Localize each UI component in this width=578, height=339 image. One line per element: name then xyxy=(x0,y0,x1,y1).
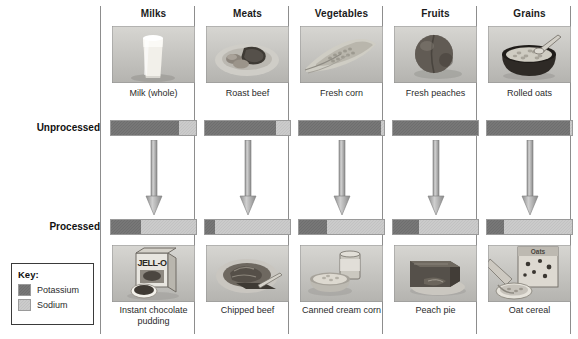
potassium-segment xyxy=(393,220,419,234)
roast-beef-plate-photo xyxy=(206,26,289,83)
glass-of-milk-photo xyxy=(112,26,195,83)
food-column-milks: MilksMilk (whole)JELL-OInstant chocolate… xyxy=(106,0,201,339)
row-label-processed: Processed xyxy=(4,221,100,232)
potassium-segment xyxy=(487,220,504,234)
nutrient-bar-unprocessed-vegetables xyxy=(298,120,385,136)
nutrient-bar-unprocessed-milks xyxy=(110,120,197,136)
column-header-milks: Milks xyxy=(106,8,201,19)
nutrient-bar-processed-milks xyxy=(110,219,197,235)
oat-cereal-box-photo: Oats xyxy=(488,245,571,302)
svg-text:Oats: Oats xyxy=(531,248,546,255)
process-arrow-grains xyxy=(520,140,540,216)
sodium-segment xyxy=(381,121,384,135)
potassium-segment xyxy=(487,121,570,135)
nutrient-comparison-figure: Unprocessed Processed Key: Potassium Sod… xyxy=(0,0,578,339)
chipped-beef-plate-photo xyxy=(206,245,289,302)
potassium-swatch-icon xyxy=(18,284,31,296)
process-arrow-vegetables xyxy=(332,140,352,216)
nutrient-bar-processed-grains xyxy=(486,219,573,235)
food-column-meats: MeatsRoast beefChipped beef xyxy=(200,0,295,339)
nutrient-bar-unprocessed-fruits xyxy=(392,120,479,136)
potassium-segment xyxy=(205,220,215,234)
sodium-segment xyxy=(419,220,479,234)
process-arrow-fruits xyxy=(426,140,446,216)
nutrient-bar-processed-fruits xyxy=(392,219,479,235)
sodium-segment xyxy=(141,220,196,234)
nutrient-bar-processed-meats xyxy=(204,219,291,235)
caption-unprocessed-grains: Rolled oats xyxy=(480,88,578,99)
fresh-corn-cob-photo xyxy=(300,26,383,83)
column-header-fruits: Fruits xyxy=(388,8,483,19)
row-label-unprocessed: Unprocessed xyxy=(4,122,100,133)
sodium-segment xyxy=(504,220,572,234)
legend-label-potassium: Potassium xyxy=(37,285,79,295)
nutrient-bar-unprocessed-grains xyxy=(486,120,573,136)
sodium-segment xyxy=(215,220,290,234)
caption-processed-vegetables: Canned cream corn xyxy=(292,305,391,316)
legend-key-box: Key: Potassium Sodium xyxy=(11,263,94,325)
bowl-of-rolled-oats-photo xyxy=(488,26,571,83)
svg-text:JELL-O: JELL-O xyxy=(137,258,167,268)
caption-unprocessed-vegetables: Fresh corn xyxy=(292,88,391,99)
sodium-segment xyxy=(570,121,572,135)
food-column-fruits: FruitsFresh peachesPeach pie xyxy=(388,0,483,339)
potassium-segment xyxy=(299,220,327,234)
potassium-segment xyxy=(111,121,179,135)
column-header-grains: Grains xyxy=(482,8,577,19)
caption-processed-meats: Chipped beef xyxy=(198,305,297,316)
process-arrow-meats xyxy=(238,140,258,216)
canned-cream-corn-photo xyxy=(300,245,383,302)
nutrient-bar-unprocessed-meats xyxy=(204,120,291,136)
column-header-vegetables: Vegetables xyxy=(294,8,389,19)
sodium-swatch-icon xyxy=(18,299,31,311)
legend-title: Key: xyxy=(18,269,87,280)
peach-pie-slice-photo xyxy=(394,245,477,302)
food-column-vegetables: VegetablesFresh cornCanned cream corn xyxy=(294,0,389,339)
column-header-meats: Meats xyxy=(200,8,295,19)
food-column-grains: GrainsRolled oatsOatsOat cereal xyxy=(482,0,577,339)
fresh-peach-photo xyxy=(394,26,477,83)
legend-item-sodium: Sodium xyxy=(18,299,87,311)
column-divider-0 xyxy=(100,6,101,334)
caption-processed-milks: Instant chocolate pudding xyxy=(104,305,203,326)
legend-item-potassium: Potassium xyxy=(18,284,87,296)
potassium-segment xyxy=(299,121,381,135)
caption-unprocessed-milks: Milk (whole) xyxy=(104,88,203,99)
potassium-segment xyxy=(111,220,141,234)
sodium-segment xyxy=(276,121,290,135)
process-arrow-milks xyxy=(144,140,164,216)
caption-processed-fruits: Peach pie xyxy=(386,305,485,316)
sodium-segment xyxy=(179,121,196,135)
potassium-segment xyxy=(393,121,478,135)
caption-unprocessed-fruits: Fresh peaches xyxy=(386,88,485,99)
caption-unprocessed-meats: Roast beef xyxy=(198,88,297,99)
legend-label-sodium: Sodium xyxy=(37,300,68,310)
nutrient-bar-processed-vegetables xyxy=(298,219,385,235)
sodium-segment xyxy=(327,220,384,234)
potassium-segment xyxy=(205,121,276,135)
caption-processed-grains: Oat cereal xyxy=(480,305,578,316)
jello-pudding-box-photo: JELL-O xyxy=(112,245,195,302)
